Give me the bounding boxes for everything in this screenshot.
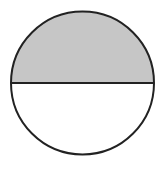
fraction-circle-diagram <box>0 0 164 171</box>
unshaded-bottom-half <box>11 83 154 154</box>
shaded-top-half <box>11 12 154 83</box>
diagram-canvas <box>0 0 164 171</box>
